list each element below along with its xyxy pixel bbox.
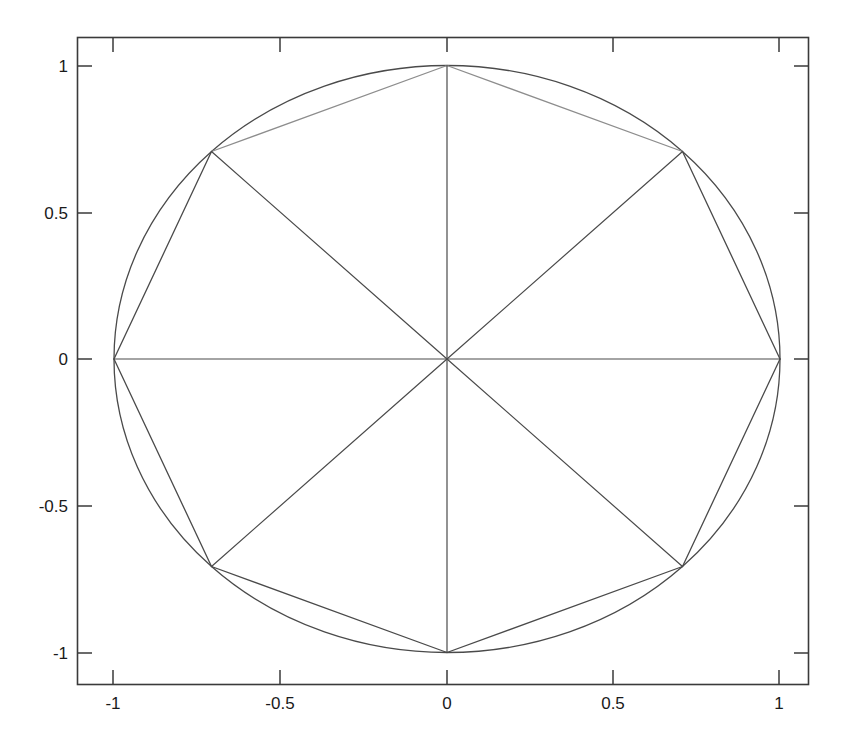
spoke-5 xyxy=(212,359,448,567)
plot-svg: 1 0.5 0 -0.5 -1 -1 -0.5 0 0.5 1 xyxy=(0,0,854,754)
axes-box xyxy=(78,38,809,685)
figure-canvas: 1 0.5 0 -0.5 -1 -1 -0.5 0 0.5 1 xyxy=(0,0,854,754)
y-tick-labels: 1 0.5 0 -0.5 -1 xyxy=(39,57,68,663)
radial-spokes xyxy=(114,66,780,653)
y-tick-label-0: 0 xyxy=(59,350,68,369)
spoke-1 xyxy=(447,152,683,360)
y-tick-label-1: 1 xyxy=(59,57,68,76)
octagon-edge-2 xyxy=(212,66,448,152)
x-tick-label-neg0.5: -0.5 xyxy=(265,694,294,713)
spoke-7 xyxy=(447,359,683,567)
x-tick-label-1: 1 xyxy=(774,694,783,713)
y-tick-label-0.5: 0.5 xyxy=(44,204,68,223)
octagon-edge-3 xyxy=(114,152,212,360)
x-tick-labels: -1 -0.5 0 0.5 1 xyxy=(105,694,783,713)
x-axis-ticks xyxy=(113,670,779,684)
x-tick-label-0: 0 xyxy=(442,694,451,713)
x-tick-label-0.5: 0.5 xyxy=(601,694,625,713)
y-tick-label-neg1: -1 xyxy=(53,644,68,663)
octagon-edge-5 xyxy=(212,567,448,653)
octagon-edge-1 xyxy=(447,66,683,152)
octagon-edge-0 xyxy=(683,152,781,360)
octagon-edge-7 xyxy=(683,359,781,567)
y-axis-ticks xyxy=(78,66,92,653)
y-axis-ticks-right xyxy=(794,66,808,653)
axes-frame xyxy=(78,38,809,685)
spoke-3 xyxy=(212,152,448,360)
x-axis-ticks-top xyxy=(113,38,779,52)
y-tick-label-neg0.5: -0.5 xyxy=(39,497,68,516)
octagon-edge-6 xyxy=(447,567,683,653)
octagon-edge-4 xyxy=(114,359,212,567)
x-tick-label-neg1: -1 xyxy=(105,694,120,713)
